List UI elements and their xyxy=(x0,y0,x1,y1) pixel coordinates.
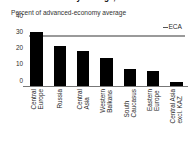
x-axis-tick-label-line: Europe xyxy=(37,89,44,110)
bar xyxy=(124,69,136,87)
chart-title: advanced-economy average, 2013 xyxy=(6,0,192,2)
x-axis-line xyxy=(23,86,188,87)
x-axis-tick-label: CentralAsia xyxy=(76,89,90,110)
x-axis-labels: CentralEuropeRussiaCentralAsiaWesternBal… xyxy=(25,89,188,153)
x-axis-tick-label-line: Eastern xyxy=(146,89,153,111)
y-axis-tick-label: 20 xyxy=(16,45,23,51)
x-axis-label-slot: Central Asiaexcl. KAZ xyxy=(165,89,188,153)
x-axis-tick-label-line: South xyxy=(123,101,130,118)
bar-slot xyxy=(30,22,42,87)
bar-slot xyxy=(100,22,112,87)
bar-series xyxy=(25,22,188,87)
bar-slot xyxy=(147,22,159,87)
bar xyxy=(54,46,66,87)
x-axis-tick-label: CentralEurope xyxy=(29,89,43,110)
bar xyxy=(30,32,42,87)
x-axis-tick-label-line: Asia xyxy=(83,89,90,110)
bar-slot xyxy=(54,22,66,87)
x-axis-tick-label-line: Central xyxy=(76,89,83,110)
x-axis-label-slot: CentralAsia xyxy=(72,89,95,153)
chart-subtitle: Percent of advanced-economy average xyxy=(11,9,126,17)
bar-slot xyxy=(77,22,89,87)
x-axis-label-slot: CentralEurope xyxy=(25,89,48,153)
bar-slot xyxy=(170,22,182,87)
x-axis-label-slot: SouthCaucasus xyxy=(118,89,141,153)
x-axis-label-slot: Russia xyxy=(48,89,71,153)
bar xyxy=(77,51,89,87)
x-axis-tick-label-line: excl. KAZ xyxy=(176,89,183,123)
x-axis-tick-label-line: Europe xyxy=(153,89,160,111)
x-axis-tick-label-line: Russia xyxy=(56,89,63,109)
plot-area: 403020100 ECA xyxy=(25,22,188,87)
x-axis-tick-label: EasternEurope xyxy=(146,89,160,111)
x-axis-label-slot: WesternBalkans xyxy=(95,89,118,153)
y-axis-tick-label: 10 xyxy=(16,61,23,67)
bar xyxy=(147,71,159,87)
y-axis-tick-label: 30 xyxy=(16,29,23,35)
x-axis-tick-label: Central Asiaexcl. KAZ xyxy=(169,89,183,123)
x-axis-tick-label-line: Central xyxy=(29,89,36,110)
x-axis-label-slot: EasternEurope xyxy=(141,89,164,153)
x-axis-tick-label: SouthCaucasus xyxy=(123,89,137,117)
y-axis-tick-label: 40 xyxy=(16,12,23,18)
bar-slot xyxy=(124,22,136,87)
x-axis-tick-label: Russia xyxy=(56,89,63,109)
x-axis-tick-label-line: Balkans xyxy=(106,89,113,113)
chart-figure: advanced-economy average, 2013 Percent o… xyxy=(0,0,192,153)
bar xyxy=(100,58,112,87)
x-axis-tick-label-line: Caucasus xyxy=(130,89,137,117)
y-axis-tick-label: 0 xyxy=(19,77,23,83)
x-axis-tick-label: WesternBalkans xyxy=(99,89,113,113)
